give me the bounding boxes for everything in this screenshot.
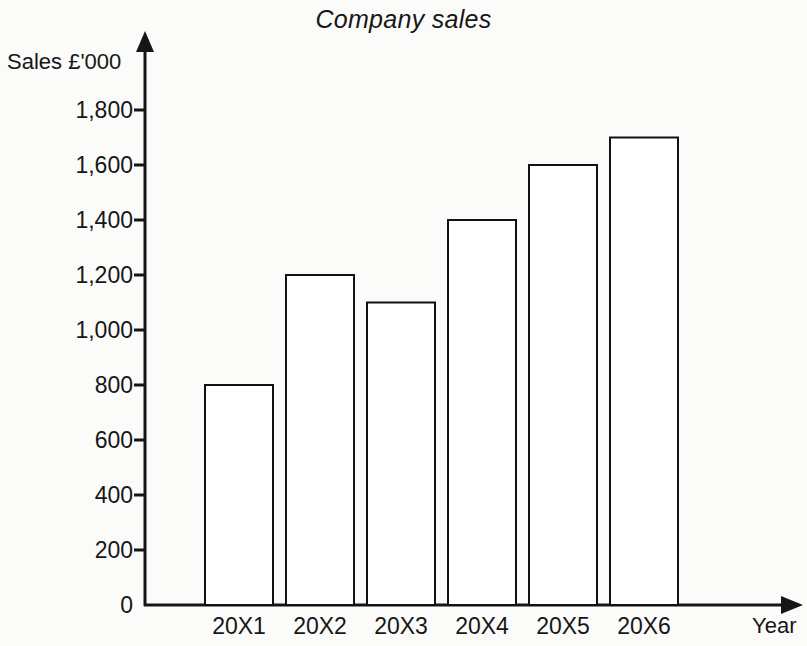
y-axis-tick-label: 1,800 (5, 97, 133, 124)
y-axis-tick-label: 1,600 (5, 152, 133, 179)
y-axis-tick-label: 600 (5, 427, 133, 454)
x-axis-tick-label: 20X1 (212, 613, 266, 640)
x-axis-tick-label: 20X2 (293, 613, 347, 640)
bar (529, 165, 597, 605)
bar (367, 303, 435, 606)
bar-series (205, 138, 678, 606)
x-axis-tick-label: 20X5 (536, 613, 590, 640)
x-axis-arrow-icon (781, 596, 803, 614)
bar (448, 220, 516, 605)
x-axis-tick-label: 20X3 (374, 613, 428, 640)
y-axis-ticks (134, 110, 145, 550)
x-axis-tick-label: 20X6 (617, 613, 671, 640)
y-axis-tick-label: 1,400 (5, 207, 133, 234)
y-axis-tick-label: 1,200 (5, 262, 133, 289)
y-axis-tick-label: 400 (5, 482, 133, 509)
y-axis-tick-label: 1,000 (5, 317, 133, 344)
bar (610, 138, 678, 606)
y-axis-tick-label: 0 (5, 592, 133, 619)
bar-chart: Company sales Sales £'000 Year 020040060… (0, 0, 807, 646)
bar (205, 385, 273, 605)
y-axis-arrow-icon (136, 31, 154, 52)
y-axis-tick-label: 200 (5, 537, 133, 564)
y-axis-tick-label: 800 (5, 372, 133, 399)
bar (286, 275, 354, 605)
x-axis-tick-label: 20X4 (455, 613, 509, 640)
